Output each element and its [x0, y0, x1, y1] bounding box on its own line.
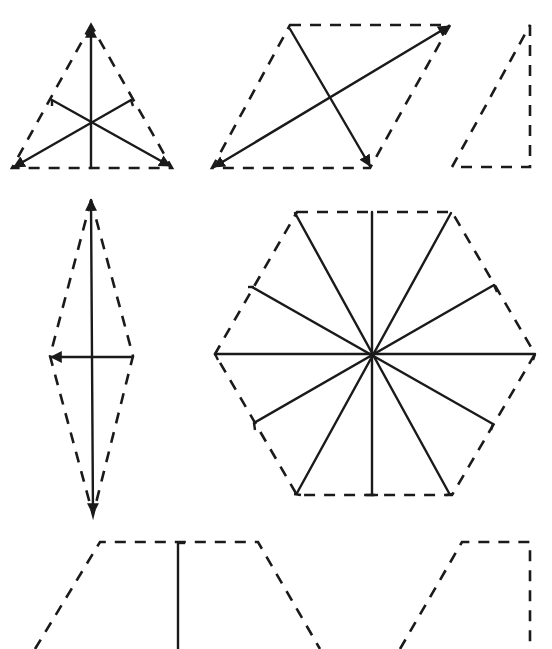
tick-mark — [294, 494, 301, 495]
isosceles-trapezoid — [35, 542, 320, 649]
parallelogram — [212, 25, 450, 168]
right-trapezoid-outline — [400, 542, 530, 649]
rhombus — [50, 200, 133, 515]
hexagon-axes — [215, 212, 535, 495]
equilateral-triangle — [12, 25, 172, 168]
symmetry-diagram — [0, 0, 552, 649]
parallelogram-diagonal — [214, 26, 449, 167]
tick-mark — [446, 494, 453, 495]
tick-mark — [491, 424, 493, 430]
right-triangle — [452, 25, 530, 167]
regular-hexagon — [215, 212, 535, 495]
parallelogram-line — [290, 29, 370, 166]
right-trapezoid — [400, 542, 530, 649]
right-triangle-outline — [452, 25, 530, 167]
tick-mark — [254, 423, 255, 430]
